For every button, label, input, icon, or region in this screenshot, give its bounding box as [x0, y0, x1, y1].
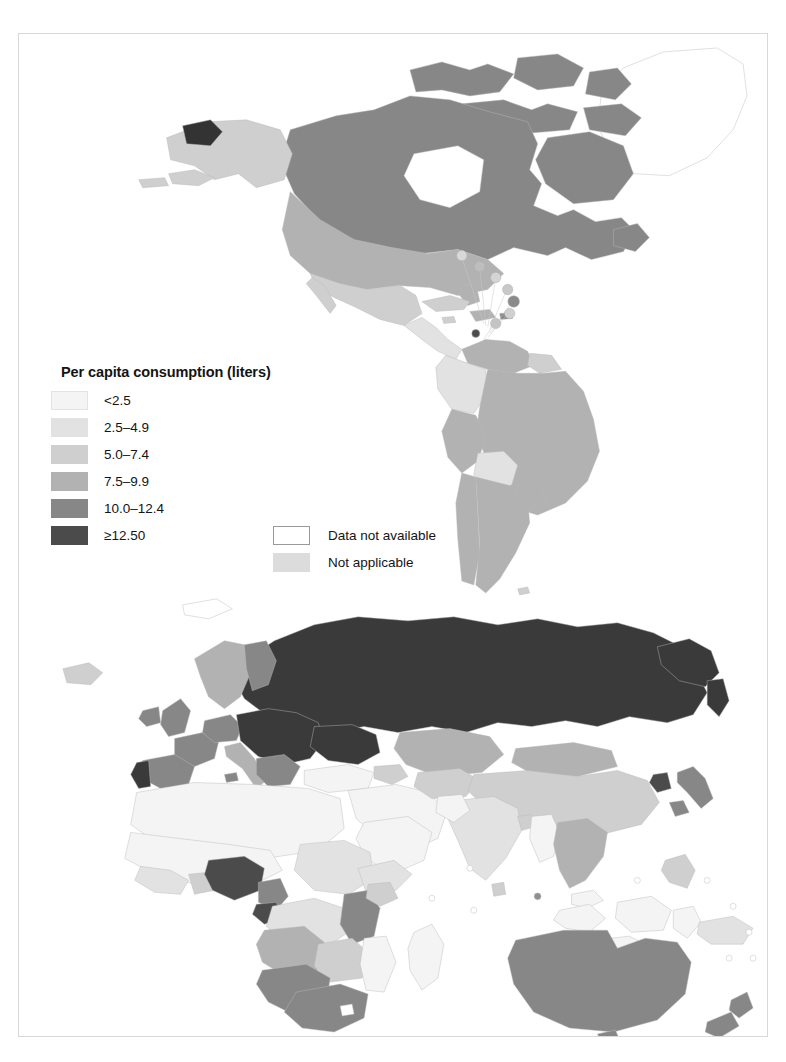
legend-label-lt-2-5: <2.5	[104, 393, 131, 408]
figure-frame: Per capita consumption (liters) <2.5 2.5…	[18, 33, 768, 1037]
legend-label-10-0-12-4: 10.0–12.4	[104, 501, 164, 516]
legend-swatch-2-5-4-9	[51, 418, 88, 437]
region-australia	[508, 930, 692, 1032]
legend-swatch-7-5-9-9	[51, 472, 88, 491]
legend-swatch-data-not-available	[273, 526, 310, 545]
region-sulawesi	[673, 906, 701, 938]
region-ireland	[139, 707, 161, 727]
region-kamchatka	[707, 679, 729, 717]
legend-label-gte-12-50: ≥12.50	[104, 528, 145, 543]
legend-swatch-gte-12-50	[51, 526, 88, 545]
legend-row-lt-2-5: <2.5	[51, 387, 591, 414]
region-norway-sweden	[195, 641, 253, 709]
legend-label-2-5-4-9: 2.5–4.9	[104, 420, 149, 435]
region-ukraine-caucasus	[310, 725, 380, 765]
legend-label-data-not-available: Data not available	[328, 528, 436, 543]
legend-label-5-0-7-4: 5.0–7.4	[104, 447, 149, 462]
region-turkey	[304, 765, 374, 793]
legend-row-data-not-available: Data not available	[273, 522, 436, 549]
region-sri-lanka	[492, 882, 506, 896]
region-thailand-indochina	[554, 818, 608, 888]
region-iceland	[63, 663, 103, 685]
region-svalbard	[183, 599, 233, 619]
legend-row-5-0-7-4: 5.0–7.4	[51, 441, 591, 468]
legend-label-7-5-9-9: 7.5–9.9	[104, 474, 149, 489]
legend-swatch-5-0-7-4	[51, 445, 88, 464]
legend-swatch-10-0-12-4	[51, 499, 88, 518]
legend-row-7-5-9-9: 7.5–9.9	[51, 468, 591, 495]
region-japan-south	[669, 800, 689, 816]
region-sumatra	[554, 904, 606, 932]
region-borneo	[615, 896, 671, 932]
legend-class-list: <2.5 2.5–4.9 5.0–7.4 7.5–9.9 10.0–12.4 ≥	[51, 387, 591, 549]
region-kazakhstan	[394, 729, 504, 777]
legend-swatch-not-applicable	[273, 553, 310, 572]
region-republic-of-korea	[649, 773, 671, 793]
legend-title: Per capita consumption (liters)	[61, 364, 591, 380]
region-papua-new-guinea	[697, 916, 753, 944]
legend-row-2-5-4-9: 2.5–4.9	[51, 414, 591, 441]
region-caucasus-states	[374, 765, 408, 785]
region-madagascar	[408, 924, 444, 990]
region-new-zealand-north	[729, 992, 753, 1018]
region-mozambique	[360, 936, 396, 992]
region-sicily-sardinia	[224, 773, 238, 783]
region-lesotho	[340, 1004, 354, 1016]
region-nigeria	[205, 856, 265, 900]
region-new-zealand-south	[705, 1012, 739, 1036]
map-legend: Per capita consumption (liters) <2.5 2.5…	[51, 364, 591, 549]
legend-row-10-0-12-4: 10.0–12.4	[51, 495, 591, 522]
legend-row-not-applicable: Not applicable	[273, 549, 414, 576]
legend-swatch-lt-2-5	[51, 391, 88, 410]
region-philippines	[661, 854, 695, 888]
region-russian-federation	[234, 617, 707, 733]
legend-label-not-applicable: Not applicable	[328, 555, 414, 570]
region-united-kingdom	[161, 699, 191, 737]
region-portugal	[131, 761, 151, 789]
